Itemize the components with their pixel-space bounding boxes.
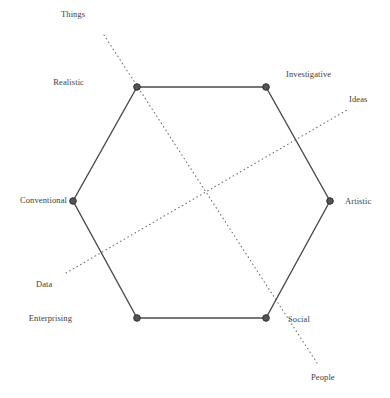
hexagon-edge-enterprising-conventional xyxy=(73,201,137,318)
vertex-label-realistic: Realistic xyxy=(0,77,84,87)
axis-label-things: Things xyxy=(61,9,85,19)
vertex-dot-realistic xyxy=(134,84,141,91)
vertex-label-conventional: Conventional xyxy=(0,195,67,205)
vertex-label-social: Social xyxy=(288,314,310,324)
axis-label-data: Data xyxy=(36,279,52,289)
vertex-dot-artistic xyxy=(327,198,334,205)
vertex-dot-conventional xyxy=(70,198,77,205)
riasec-hexagon-figure: RealisticInvestigativeArtisticSocialEnte… xyxy=(0,0,390,398)
axis-label-ideas: Ideas xyxy=(349,94,367,104)
vertex-dot-social xyxy=(263,315,270,322)
hexagon-edge-conventional-realistic xyxy=(73,87,137,201)
hexagon-edge-artistic-social xyxy=(266,201,330,318)
axis-label-people: People xyxy=(311,372,335,382)
hexagon-edge-investigative-artistic xyxy=(266,87,330,201)
vertex-label-investigative: Investigative xyxy=(286,69,331,79)
vertex-label-artistic: Artistic xyxy=(345,196,371,206)
vertex-dot-enterprising xyxy=(134,315,141,322)
hexagon-vertices-group xyxy=(70,84,334,322)
vertex-label-enterprising: Enterprising xyxy=(0,313,72,323)
dotted-axis-data-ideas xyxy=(66,110,347,273)
vertex-dot-investigative xyxy=(263,84,270,91)
hexagon-edges-group xyxy=(73,87,330,318)
